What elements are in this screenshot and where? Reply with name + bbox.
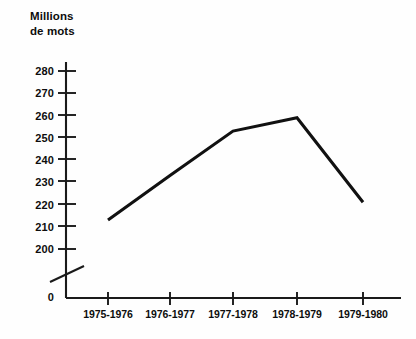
y-axis-tick-label: 220 <box>14 199 54 211</box>
x-axis-tick-label: 1978-1979 <box>260 308 334 320</box>
x-axis-tick-label: 1977-1978 <box>196 308 270 320</box>
x-axis-tick-label: 1979-1980 <box>326 308 400 320</box>
chart-container: Millions de mots <box>0 0 416 339</box>
y-axis-tick-label: 250 <box>14 132 54 144</box>
y-axis-tick-label: 230 <box>14 176 54 188</box>
data-series-line <box>108 118 363 220</box>
y-axis-tick-label: 210 <box>14 221 54 233</box>
y-axis-zero-label: 0 <box>14 291 54 303</box>
y-axis-tick-label: 260 <box>14 110 54 122</box>
chart-plot-area <box>0 0 416 339</box>
y-axis-tick-label: 200 <box>14 243 54 255</box>
y-axis-tick-label: 240 <box>14 154 54 166</box>
y-axis-tick-label: 270 <box>14 87 54 99</box>
y-axis-tick-label: 280 <box>14 65 54 77</box>
